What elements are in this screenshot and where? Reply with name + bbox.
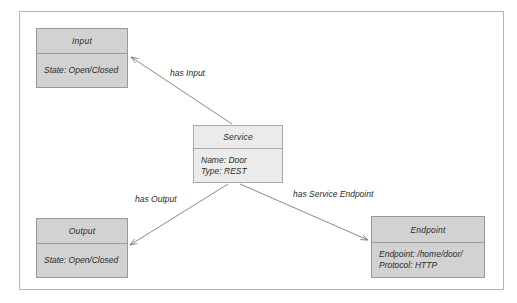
uml-class-input-name: Input: [37, 29, 127, 54]
uml-class-endpoint-name: Endpoint: [372, 217, 484, 243]
uml-class-endpoint-attributes: Endpoint: /home/door/ Protocol: HTTP: [372, 243, 484, 277]
uml-attribute: Name: Door: [201, 155, 282, 166]
uml-class-output-name: Output: [37, 219, 127, 244]
uml-attribute: Endpoint: /home/door/: [379, 249, 484, 260]
uml-class-endpoint[interactable]: Endpoint Endpoint: /home/door/ Protocol:…: [371, 216, 485, 278]
uml-attribute: State: Open/Closed: [44, 65, 127, 76]
uml-attribute: State: Open/Closed: [44, 255, 127, 266]
uml-class-output[interactable]: Output State: Open/Closed: [36, 218, 128, 278]
uml-class-service-name: Service: [194, 126, 282, 149]
uml-class-input-attributes: State: Open/Closed: [37, 54, 127, 87]
edge-label-has-service-endpoint: has Service Endpoint: [293, 189, 373, 199]
uml-class-output-attributes: State: Open/Closed: [37, 244, 127, 277]
uml-class-input[interactable]: Input State: Open/Closed: [36, 28, 128, 88]
uml-attribute: Protocol: HTTP: [379, 260, 484, 271]
uml-class-service-attributes: Name: Door Type: REST: [194, 149, 282, 182]
edge-label-has-input: has Input: [170, 68, 205, 78]
uml-attribute: Type: REST: [201, 166, 282, 177]
edge-label-has-output: has Output: [135, 194, 177, 204]
uml-class-service[interactable]: Service Name: Door Type: REST: [193, 125, 283, 183]
